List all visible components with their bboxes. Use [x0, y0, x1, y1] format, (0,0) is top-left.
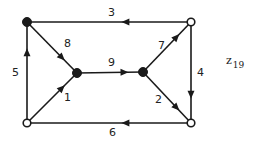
graph-label-main: z — [226, 54, 232, 67]
arrowhead-icon — [121, 120, 129, 127]
edge-d-b — [143, 22, 191, 72]
edge-label: 5 — [12, 66, 19, 79]
graph-label: z19 — [226, 54, 245, 70]
filled-vertex-icon — [139, 68, 148, 77]
arrowhead-icon — [121, 19, 129, 26]
directed-graph-diagram: 345681972 z19 — [0, 0, 261, 146]
open-vertex-icon — [187, 18, 195, 26]
edge-label: 1 — [64, 91, 71, 104]
filled-vertex-icon — [73, 69, 82, 78]
edge-label: 9 — [108, 56, 115, 69]
open-vertex-icon — [23, 119, 31, 127]
edge-label: 8 — [64, 37, 71, 50]
edge-label: 4 — [197, 66, 204, 79]
edge-c-d — [77, 72, 143, 73]
arrowhead-icon — [188, 91, 195, 99]
filled-vertex-icon — [23, 18, 32, 27]
edge-label: 7 — [158, 39, 165, 52]
edges-group — [24, 19, 195, 127]
edge-label: 6 — [109, 126, 116, 139]
edge-d-f — [143, 72, 191, 123]
edge-label: 2 — [155, 93, 162, 106]
edge-label: 3 — [108, 6, 115, 19]
arrowhead-icon — [120, 69, 128, 76]
open-vertex-icon — [187, 119, 195, 127]
graph-label-subscript: 19 — [233, 60, 245, 70]
arrowhead-icon — [24, 48, 31, 56]
